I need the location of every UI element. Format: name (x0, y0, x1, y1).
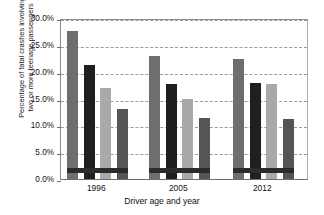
y-axis-tick (57, 127, 61, 128)
bar (233, 59, 244, 179)
x-axis-tick-label: 2005 (148, 183, 208, 193)
y-axis-tick (57, 47, 61, 48)
dark-horizontal-band (149, 168, 210, 173)
bar (84, 65, 95, 179)
y-axis-tick (57, 20, 61, 21)
y-axis-tick-label: 15.0% (0, 95, 54, 104)
bar (182, 99, 193, 179)
x-axis-tick-label: 2012 (232, 183, 292, 193)
y-axis-tick-label: 20.0% (0, 68, 54, 77)
y-axis-tick (57, 74, 61, 75)
y-axis-tick-label: 10.0% (0, 121, 54, 130)
y-axis-tick-label: 30.0% (0, 14, 54, 23)
x-axis-title: Driver age and year (0, 196, 324, 206)
x-axis-tick-label: 1996 (66, 183, 126, 193)
bar (100, 88, 111, 179)
gridline (61, 74, 307, 75)
bar (250, 83, 261, 179)
gridline (61, 20, 307, 21)
dark-horizontal-band (67, 168, 128, 173)
bar (166, 84, 177, 179)
y-axis-tick-label: 25.0% (0, 41, 54, 50)
y-axis-tick (57, 154, 61, 155)
bar (149, 56, 160, 179)
y-axis-tick-label: 0.0% (0, 175, 54, 184)
y-axis-tick (57, 181, 61, 182)
y-axis-tick (57, 101, 61, 102)
y-axis-tick-labels: 0.0%5.0%10.0%15.0%20.0%25.0%30.0% (0, 19, 60, 180)
gridline (61, 47, 307, 48)
bar (266, 84, 277, 179)
y-axis-tick-label: 5.0% (0, 148, 54, 157)
bar (67, 31, 78, 179)
plot-area (60, 19, 308, 180)
dark-horizontal-band (233, 168, 294, 173)
bar-chart: Percentage of fatal crashes involving tw… (0, 0, 324, 215)
